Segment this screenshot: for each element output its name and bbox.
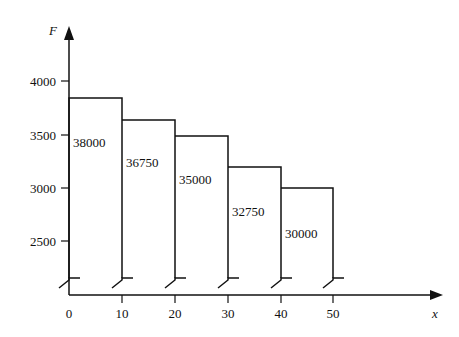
x-tick-label: 0 — [66, 306, 73, 321]
bar-10-20 — [122, 120, 175, 278]
y-tick-label: 3500 — [30, 128, 56, 143]
y-tick-label: 3000 — [30, 181, 56, 196]
x-tick-label: 10 — [116, 306, 129, 321]
x-tick-label: 30 — [222, 306, 235, 321]
break-icon — [165, 278, 186, 288]
bar-20-30 — [175, 136, 228, 278]
bar-label: 30000 — [285, 226, 318, 241]
y-axis-title: F — [48, 23, 58, 38]
x-axis-arrow-icon — [430, 290, 443, 300]
axis-break-icons — [59, 278, 344, 288]
chart: F x 4000 3500 3000 2500 0 10 20 30 40 50 — [0, 0, 459, 337]
break-icon — [112, 278, 133, 288]
y-ticks: 4000 3500 3000 2500 — [30, 74, 69, 249]
x-tick-label: 20 — [169, 306, 182, 321]
break-icon — [271, 278, 292, 288]
bar-0-10 — [69, 98, 122, 278]
x-tick-label: 50 — [327, 306, 340, 321]
bars — [69, 98, 333, 278]
break-icon — [323, 278, 344, 288]
x-ticks: 0 10 20 30 40 50 — [66, 295, 340, 321]
y-tick-label: 4000 — [30, 74, 56, 89]
break-icon — [218, 278, 239, 288]
x-axis-title: x — [431, 306, 438, 321]
bar-label: 36750 — [126, 155, 159, 170]
y-tick-label: 2500 — [30, 234, 56, 249]
bar-30-40 — [228, 167, 281, 278]
bar-label: 32750 — [232, 204, 265, 219]
y-axis-arrow-icon — [64, 26, 74, 40]
bar-label: 38000 — [73, 135, 106, 150]
x-tick-label: 40 — [275, 306, 288, 321]
bar-label: 35000 — [179, 172, 212, 187]
